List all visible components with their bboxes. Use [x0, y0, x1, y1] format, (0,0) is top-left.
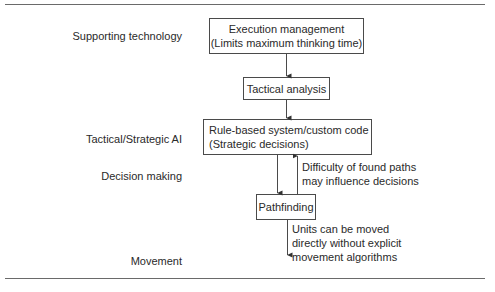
connector-arrows: [0, 0, 495, 292]
